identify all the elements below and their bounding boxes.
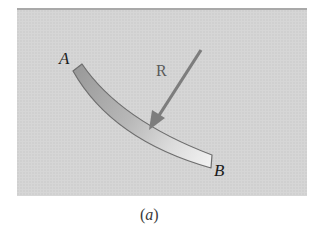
label-end-b: B (214, 162, 224, 179)
label-force-r: R (156, 63, 167, 79)
figure: A R B (a) (0, 0, 321, 242)
figure-caption: (a) (140, 207, 159, 223)
curved-beam (73, 64, 212, 168)
diagram-drawing (0, 0, 321, 242)
label-end-a: A (59, 50, 69, 67)
caption-close-paren: ) (153, 206, 158, 223)
